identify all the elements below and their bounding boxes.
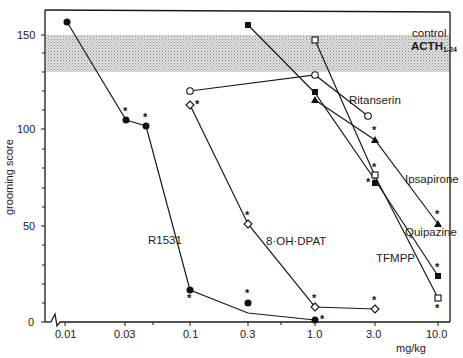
grooming-score-chart: 0 50 100 150 grooming score 0.01 0.03 0.…	[0, 0, 463, 358]
label-ritanserin: Ritanserin	[349, 94, 401, 106]
svg-text:*: *	[123, 105, 128, 117]
y-tick-150: 150	[17, 29, 35, 41]
x-tick-0.3: 0.3	[240, 328, 255, 340]
svg-text:*: *	[312, 292, 317, 304]
control-band	[46, 35, 450, 72]
svg-text:*: *	[143, 111, 148, 123]
label-8ohdpat: 8·OH·DPAT	[266, 235, 326, 247]
markers-ritanserin	[187, 72, 372, 120]
y-tick-50: 50	[23, 220, 35, 232]
svg-text:*: *	[435, 208, 440, 220]
label-ipsapirone: Ipsapirone	[405, 173, 459, 185]
x-tick-0.03: 0.03	[114, 328, 135, 340]
x-tick-3.0: 3.0	[366, 328, 381, 340]
svg-text:*: *	[435, 261, 440, 273]
label-r1531: R1531	[148, 234, 182, 246]
x-axis-unit: mg/kg	[396, 342, 426, 354]
svg-text:*: *	[372, 294, 377, 306]
x-tick-1.0: 1.0	[307, 328, 322, 340]
x-tick-0.01: 0.01	[55, 328, 76, 340]
x-tick-0.1: 0.1	[183, 328, 198, 340]
svg-text:*: *	[245, 209, 250, 221]
y-tick-100: 100	[17, 123, 35, 135]
label-tfmpp: TFMPP	[376, 252, 415, 264]
markers-8ohdpat	[186, 101, 379, 313]
y-axis-title: grooming score	[3, 139, 15, 215]
line-ritanserin	[190, 75, 368, 116]
svg-text:*: *	[320, 313, 325, 325]
svg-text:*: *	[372, 161, 377, 173]
svg-text:*: *	[187, 292, 192, 304]
svg-text:*: *	[366, 176, 371, 188]
x-tick-10.0: 10.0	[426, 328, 447, 340]
svg-text:*: *	[435, 302, 440, 314]
line-8ohdpat	[190, 105, 375, 309]
label-quipazine: Quipazine	[405, 226, 457, 238]
control-label: control	[412, 27, 447, 39]
significance-asterisks: * * * * * * * * * * * * * * *	[123, 98, 440, 325]
y-tick-0: 0	[28, 316, 34, 328]
line-ipsapirone	[315, 100, 438, 224]
svg-text:*: *	[195, 98, 200, 110]
svg-text:*: *	[372, 124, 377, 136]
svg-text:*: *	[245, 287, 250, 299]
